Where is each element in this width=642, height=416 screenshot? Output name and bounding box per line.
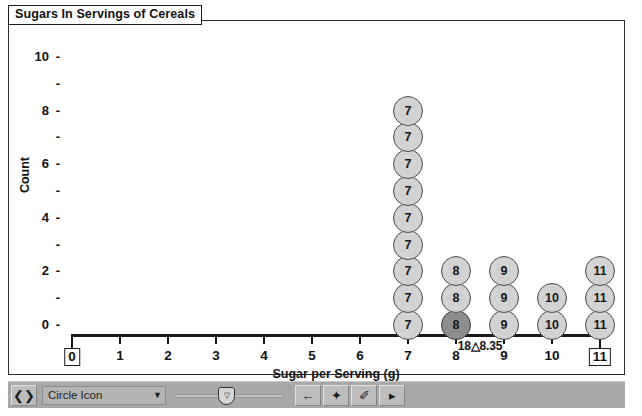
dot-plot-point[interactable]: 10 — [537, 283, 567, 313]
x-axis-tick-mark — [359, 334, 361, 344]
x-axis-tick-label: 7 — [404, 348, 412, 364]
x-axis-tick-label: 4 — [260, 348, 268, 364]
slider-thumb[interactable]: ▽ — [218, 387, 235, 405]
x-axis-tick-mark — [167, 334, 169, 344]
tool-button-group: ←✦✐▸ — [294, 385, 406, 406]
back-button[interactable]: ← — [295, 385, 321, 406]
x-axis-tick-label: 10 — [544, 348, 559, 364]
y-axis-tick-label: 6 — [42, 156, 49, 171]
dot-plot-point[interactable]: 8 — [441, 283, 471, 313]
y-axis-tick: - — [8, 238, 60, 252]
y-axis-tick: - — [8, 184, 60, 198]
y-axis-tick-mark: - — [53, 104, 60, 118]
bottom-strip — [0, 408, 642, 416]
y-axis-tick-mark: - — [53, 211, 60, 225]
y-axis-tick-label: 10 — [35, 49, 49, 64]
chevron-down-icon: ▼ — [153, 391, 162, 400]
x-axis-tick-mark — [215, 334, 217, 344]
y-axis-tick-label: 0 — [42, 317, 49, 332]
x-axis-tick-label: 6 — [356, 348, 364, 364]
y-axis-tick-mark: - — [53, 157, 60, 171]
y-axis-tick: 2- — [8, 264, 60, 278]
y-axis-tick-mark: - — [53, 130, 60, 144]
x-axis-tick-label: 2 — [164, 348, 172, 364]
dot-plot-point[interactable]: 10 — [537, 310, 567, 340]
y-axis-tick: 4- — [8, 211, 60, 225]
y-axis-tick-label: 8 — [42, 103, 49, 118]
y-axis-tick: 0- — [8, 318, 60, 332]
pen-button[interactable]: ✐ — [351, 385, 377, 406]
drag-handle-icon[interactable]: ❮❯ — [11, 385, 37, 406]
y-axis-tick: 10- — [8, 50, 60, 64]
y-axis-tick: - — [8, 291, 60, 305]
y-axis-tick-mark: - — [53, 318, 60, 332]
dotplot-window: Sugars In Servings of Cereals Count 0--2… — [0, 0, 642, 416]
dot-plot-point[interactable]: 7 — [393, 149, 423, 179]
x-axis-tick-label: 3 — [212, 348, 220, 364]
dot-plot-point[interactable]: 7 — [393, 176, 423, 206]
y-axis-tick-mark: - — [53, 184, 60, 198]
dot-plot-point[interactable]: 11 — [585, 283, 615, 313]
y-axis-tick: - — [8, 77, 60, 91]
dot-plot-point[interactable]: 7 — [393, 283, 423, 313]
play-button[interactable]: ▸ — [379, 385, 405, 406]
x-axis-endpoint-label[interactable]: 11 — [589, 348, 611, 366]
y-axis-tick-mark: - — [53, 264, 60, 278]
y-axis-tick-label: 2 — [42, 263, 49, 278]
y-axis-tick: 8- — [8, 104, 60, 118]
y-axis-tick-mark: - — [53, 238, 60, 252]
dot-plot-point[interactable]: 7 — [393, 203, 423, 233]
dot-plot-point[interactable]: 8 — [441, 310, 471, 340]
x-axis-tick-label: 5 — [308, 348, 316, 364]
dot-plot-point[interactable]: 7 — [393, 230, 423, 260]
x-axis-tick-mark — [119, 334, 121, 344]
dot-plot-point[interactable]: 7 — [393, 96, 423, 126]
dot-plot-point[interactable]: 11 — [585, 310, 615, 340]
y-axis-tick-label: 4 — [42, 210, 49, 225]
x-axis-tick-mark — [311, 334, 313, 344]
mean-annotation[interactable]: 18△8.35 — [458, 339, 502, 353]
add-point-button[interactable]: ✦ — [323, 385, 349, 406]
size-slider[interactable]: ▽ — [174, 385, 284, 406]
x-axis-title: Sugar per Serving (g) — [272, 367, 399, 381]
x-axis-tick-label: 1 — [116, 348, 124, 364]
x-axis-tick-mark — [263, 334, 265, 344]
page-title[interactable]: Sugars In Servings of Cereals — [8, 5, 202, 25]
x-axis-endpoint-label[interactable]: 0 — [64, 348, 80, 366]
bottom-toolbar: ❮❯ Circle Icon ▼ ▽ ←✦✐▸ — [8, 381, 625, 408]
y-axis-tick-mark: - — [53, 77, 60, 91]
y-axis-tick-mark: - — [53, 50, 60, 64]
icon-type-select-value: Circle Icon — [48, 389, 102, 401]
icon-type-select[interactable]: Circle Icon ▼ — [42, 386, 166, 405]
dot-plot-point[interactable]: 9 — [489, 283, 519, 313]
y-axis-tick: - — [8, 130, 60, 144]
y-axis-tick-mark: - — [53, 291, 60, 305]
plot-frame[interactable] — [8, 20, 625, 375]
x-axis-line — [72, 334, 600, 337]
dot-plot-point[interactable]: 7 — [393, 310, 423, 340]
x-axis-tick-mark — [71, 334, 73, 348]
dot-plot-point[interactable]: 9 — [489, 310, 519, 340]
y-axis-tick: 6- — [8, 157, 60, 171]
